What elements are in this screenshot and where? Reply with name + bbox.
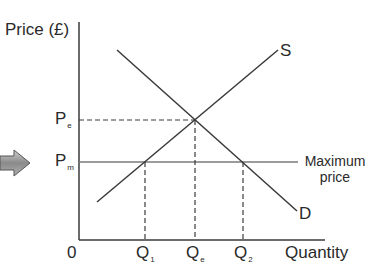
pm-label-main: P: [55, 151, 66, 170]
pointer-arrow-icon: [0, 150, 30, 176]
q2-label: Q2: [234, 243, 253, 263]
qe-label-main: Q: [186, 243, 199, 262]
y-axis-label: Price (£): [5, 20, 69, 40]
q2-label-sub: 2: [248, 255, 252, 264]
pm-label-sub: m: [67, 163, 74, 172]
pm-label: Pm: [55, 151, 74, 171]
supply-curve: [97, 50, 278, 202]
q1-label-main: Q: [136, 243, 149, 262]
maximum-price-label-line2: price: [302, 169, 368, 185]
q2-label-main: Q: [234, 243, 247, 262]
maximum-price-label-line1: Maximum: [302, 153, 368, 169]
q1-label-sub: 1: [150, 255, 154, 264]
qe-label: Qe: [186, 243, 205, 263]
q1-label: Q1: [136, 243, 155, 263]
origin-label: 0: [67, 243, 76, 263]
supply-demand-diagram: [0, 0, 391, 276]
maximum-price-label: Maximum price: [302, 153, 368, 185]
supply-label: S: [280, 41, 291, 61]
pe-label-sub: e: [67, 121, 71, 130]
demand-curve: [117, 50, 297, 211]
qe-label-sub: e: [200, 255, 204, 264]
pe-label: Pe: [55, 109, 72, 129]
pe-label-main: P: [55, 109, 66, 128]
x-axis-label: Quantity: [285, 243, 348, 263]
demand-label: D: [299, 204, 311, 224]
